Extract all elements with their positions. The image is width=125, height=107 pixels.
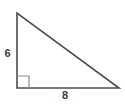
right-triangle-figure: 6 8 <box>0 0 125 107</box>
right-angle-marker-icon <box>17 76 29 88</box>
triangle-outline <box>17 13 119 88</box>
horizontal-leg-length-label: 8 <box>55 90 75 101</box>
vertical-leg-length-label: 6 <box>0 48 15 59</box>
